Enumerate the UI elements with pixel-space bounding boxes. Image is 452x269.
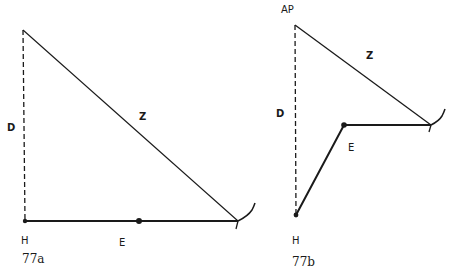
hook-icon [238, 203, 255, 221]
label-ap-77b: AP [281, 5, 294, 15]
caption-77a: 77a [22, 253, 44, 265]
label-z-77b: Z [366, 51, 373, 61]
hook-tick [429, 125, 431, 132]
figure-77a [23, 30, 255, 229]
point-h [294, 213, 299, 218]
point-h [23, 219, 27, 223]
label-h-77a: H [21, 236, 29, 246]
label-h-77b: H [292, 236, 300, 246]
line-d-dashed [295, 25, 296, 215]
label-e-77b: E [348, 143, 354, 153]
label-z-77a: Z [139, 112, 146, 122]
caption-77b: 77b [292, 256, 315, 268]
point-elbow [341, 122, 347, 128]
line-z [295, 25, 431, 125]
hook-tick [236, 221, 238, 229]
line-z-hypotenuse [23, 30, 238, 221]
label-d-77a: D [7, 123, 15, 133]
label-d-77b: D [276, 109, 284, 119]
hook-icon [431, 109, 445, 125]
diagram-canvas [0, 0, 452, 269]
point-e-mid [136, 218, 142, 224]
line-d-dashed [23, 30, 25, 221]
label-e-77a: E [119, 238, 125, 248]
line-e-bent [296, 125, 431, 215]
